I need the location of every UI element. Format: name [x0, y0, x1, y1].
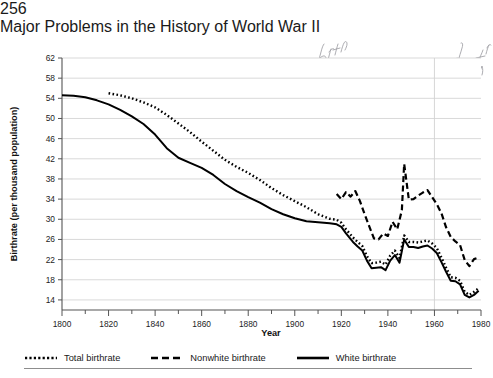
legend-item-nonwhite: Nonwhite birthrate: [150, 353, 265, 363]
y-tick-label: 30: [46, 214, 56, 224]
y-tick-label: 26: [46, 234, 56, 244]
y-tick-label: 62: [46, 53, 56, 63]
page-header: 256 Major Problems in the History of Wor…: [0, 0, 493, 44]
legend-label-white: White birthrate: [336, 353, 396, 363]
birthrate-chart: 14182226303438424650545862 1800182018401…: [0, 40, 493, 340]
legend-item-total: Total birthrate: [24, 353, 120, 363]
legend-label-total: Total birthrate: [64, 353, 120, 363]
running-head: Major Problems in the History of World W…: [0, 18, 493, 36]
legend-label-nonwhite: Nonwhite birthrate: [190, 353, 265, 363]
y-tick-label: 22: [46, 255, 56, 265]
x-axis-title: Year: [261, 328, 281, 338]
x-tick-label: 1880: [239, 319, 258, 329]
dotted-line-icon: [24, 353, 58, 363]
y-tick-label: 46: [46, 134, 56, 144]
chart-legend: Total birthrate Nonwhite birthrate White…: [24, 350, 444, 366]
x-tick-label: 1940: [379, 319, 398, 329]
x-tick-label: 1960: [425, 319, 444, 329]
legend-item-white: White birthrate: [296, 353, 396, 363]
y-tick-label: 42: [46, 154, 56, 164]
x-tick-label: 1920: [332, 319, 351, 329]
page-number: 256: [0, 0, 493, 18]
y-tick-label: 54: [46, 93, 56, 103]
y-axis-tick-labels: 14182226303438424650545862: [46, 53, 56, 305]
y-tick-label: 14: [46, 295, 56, 305]
y-tick-label: 18: [46, 275, 56, 285]
y-tick-label: 38: [46, 174, 56, 184]
solid-line-icon: [296, 353, 330, 363]
x-tick-label: 1860: [192, 319, 211, 329]
y-axis-ticks: [58, 58, 62, 300]
chart-canvas: 14182226303438424650545862 1800182018401…: [0, 40, 493, 340]
y-tick-label: 50: [46, 113, 56, 123]
x-tick-label: 1800: [53, 319, 72, 329]
x-tick-label: 1840: [146, 319, 165, 329]
footer-rule: [24, 368, 472, 369]
x-tick-label: 1900: [285, 319, 304, 329]
y-tick-label: 58: [46, 73, 56, 83]
x-tick-label: 1820: [99, 319, 118, 329]
x-axis-ticks: [62, 310, 481, 316]
y-tick-label: 34: [46, 194, 56, 204]
y-axis-title: Birthrate (per thousand population): [9, 107, 19, 262]
x-tick-label: 1980: [472, 319, 491, 329]
dashed-line-icon: [150, 353, 184, 363]
